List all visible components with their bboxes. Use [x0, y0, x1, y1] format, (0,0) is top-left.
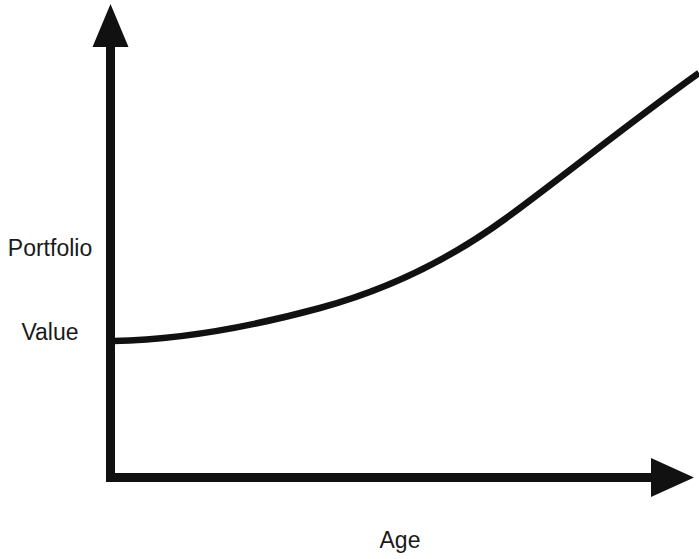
y-axis-label-line-1: Portfolio — [0, 234, 100, 262]
y-axis-label: Portfolio Value — [0, 178, 100, 402]
chart-container: Portfolio Value Age — [0, 0, 699, 559]
y-axis-arrowhead — [93, 4, 129, 47]
portfolio-growth-chart — [0, 0, 699, 559]
portfolio-value-curve — [113, 73, 699, 341]
y-axis-label-line-2: Value — [0, 318, 100, 346]
x-axis-arrowhead — [651, 458, 694, 497]
x-axis-label: Age — [330, 526, 470, 554]
